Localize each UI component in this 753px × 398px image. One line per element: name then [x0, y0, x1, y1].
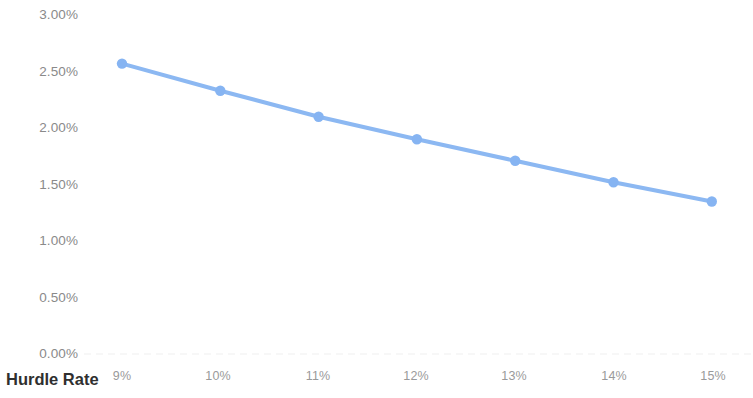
data-point[interactable]: [412, 134, 422, 144]
x-axis-title: Hurdle Rate: [6, 371, 99, 388]
data-point[interactable]: [215, 86, 225, 96]
plot-area: [0, 0, 753, 398]
x-axis-tick-label: 14%: [601, 370, 626, 383]
data-point[interactable]: [707, 196, 717, 206]
x-axis-tick-label: 13%: [501, 370, 526, 383]
data-point[interactable]: [608, 177, 618, 187]
series-line: [122, 64, 712, 202]
line-chart: 3.00% 2.50% 2.00% 1.50% 1.00% 0.50% 0.00…: [0, 0, 753, 398]
x-axis-tick-label: 11%: [306, 370, 330, 383]
data-point[interactable]: [117, 58, 127, 68]
data-point[interactable]: [313, 112, 323, 122]
data-point[interactable]: [510, 156, 520, 166]
x-axis-tick-label: 15%: [700, 370, 725, 383]
x-axis-tick-label: 9%: [113, 370, 131, 383]
x-axis-tick-label: 12%: [403, 370, 428, 383]
x-axis-tick-label: 10%: [205, 370, 230, 383]
